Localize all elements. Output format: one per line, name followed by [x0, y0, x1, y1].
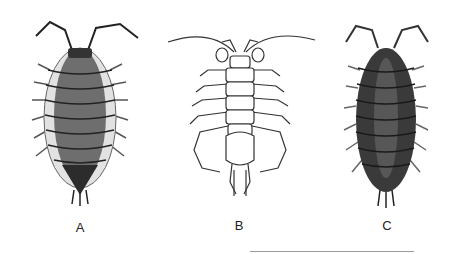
- specimen-a-illustration: [10, 0, 150, 220]
- specimen-a-label: A: [70, 220, 90, 235]
- specimen-b-illustration: [160, 0, 320, 220]
- isopod-figure: A: [0, 0, 454, 254]
- specimen-c-label: C: [377, 218, 397, 233]
- specimen-c-illustration: [320, 0, 454, 220]
- specimen-b-label: B: [229, 218, 249, 233]
- baseline-rule: [250, 251, 414, 252]
